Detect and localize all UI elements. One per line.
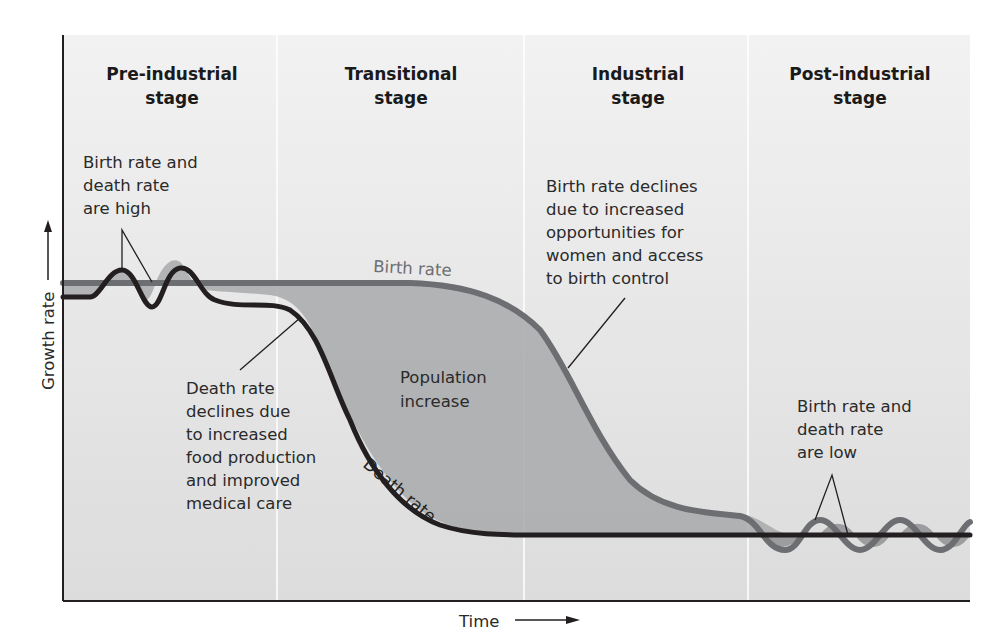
x-axis-arrow-icon [566,616,580,624]
svg-text:and improved: and improved [186,471,300,490]
x-axis-label: Time [458,612,580,631]
svg-text:stage: stage [833,88,886,108]
y-axis-arrow-icon [44,220,52,232]
stage-title-post-industrial: Post-industrial [789,64,930,84]
svg-text:stage: stage [611,88,664,108]
svg-text:women and access: women and access [546,246,703,265]
svg-text:Death rate: Death rate [186,379,275,398]
svg-text:death rate: death rate [83,176,169,195]
stage-title-industrial: Industrial [592,64,684,84]
y-axis-label: Growth rate [39,220,58,390]
svg-text:Birth rate and: Birth rate and [797,397,912,416]
svg-text:declines due: declines due [186,402,290,421]
svg-text:to increased: to increased [186,425,288,444]
svg-text:stage: stage [374,88,427,108]
svg-text:Birth rate declines: Birth rate declines [546,177,698,196]
svg-text:increase: increase [400,392,470,411]
svg-text:Birth rate and: Birth rate and [83,153,198,172]
svg-text:food production: food production [186,448,316,467]
svg-text:are high: are high [83,199,151,218]
svg-text:death rate: death rate [797,420,883,439]
svg-text:Time: Time [458,612,499,631]
demographic-transition-diagram: Pre-industrial stage Transitional stage … [0,0,1005,643]
svg-text:Growth rate: Growth rate [39,292,58,390]
svg-text:medical care: medical care [186,494,292,513]
stage-title-transitional: Transitional [345,64,458,84]
stage-title-pre-industrial: Pre-industrial [106,64,237,84]
svg-text:Population: Population [400,368,487,387]
svg-text:opportunities for: opportunities for [546,223,684,242]
svg-text:to birth control: to birth control [546,269,669,288]
svg-text:stage: stage [145,88,198,108]
svg-text:due to increased: due to increased [546,200,684,219]
svg-text:are low: are low [797,443,857,462]
